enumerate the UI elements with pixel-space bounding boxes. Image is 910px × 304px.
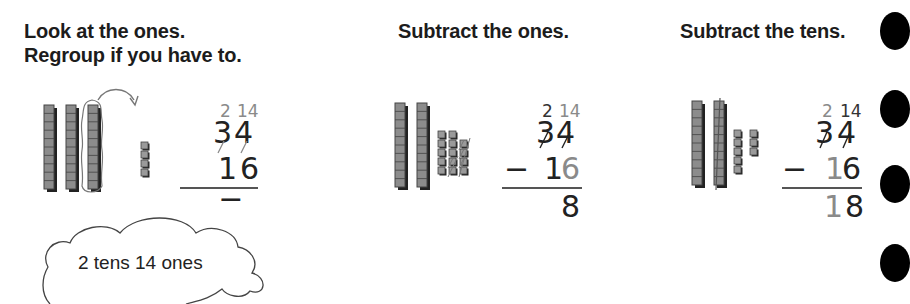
step3-heading: Subtract the tens. [680,19,845,43]
step2-bottom-ones: 6 [561,154,580,184]
step1-base-ten-blocks [40,90,170,200]
tens-rod [417,103,430,190]
step3-answer-tens: 1 [824,189,845,224]
step1-heading-line2: Regroup if you have to. [24,43,242,67]
step3-answer: 18 [824,192,866,222]
step3-minus-sign: − [782,151,807,186]
step3-bottom-ones: 6 [842,154,861,184]
regroup-arrow-icon [98,90,134,101]
step3-base-ten-blocks [690,98,790,190]
step2-strike-marks-icon [532,126,582,152]
step1-answer-line [180,187,258,189]
step2-minus-sign: − [504,151,529,186]
tens-rod [44,105,57,192]
ones-cubes [734,130,759,175]
tens-rod [692,101,705,188]
tens-rod [88,105,101,192]
step3-strike-marks-icon [812,126,862,152]
ones-cube [141,169,150,178]
step1-bottom-ones: 6 [240,154,259,184]
side-tab-4 [880,244,910,282]
side-tab-1 [880,12,910,50]
tens-rod [66,105,79,192]
ones-cube [141,151,150,160]
tens-rod [714,101,727,188]
ones-cubes [438,131,469,176]
cloud-label: 2 tens 14 ones [78,252,203,274]
step1-heading-line1: Look at the ones. [24,19,242,43]
step3-answer-ones: 8 [845,189,866,224]
step2-heading: Subtract the ones. [398,19,569,43]
step2-answer: 8 [561,192,580,222]
step2-base-ten-blocks [393,101,493,191]
ones-cube [141,160,150,169]
side-tab-3 [880,165,910,203]
step1-heading: Look at the ones. Regroup if you have to… [24,19,242,67]
step1-bottom-tens: 1 [218,154,237,184]
ones-cube [141,142,150,151]
tens-rod [395,103,408,190]
side-tab-2 [880,90,910,128]
